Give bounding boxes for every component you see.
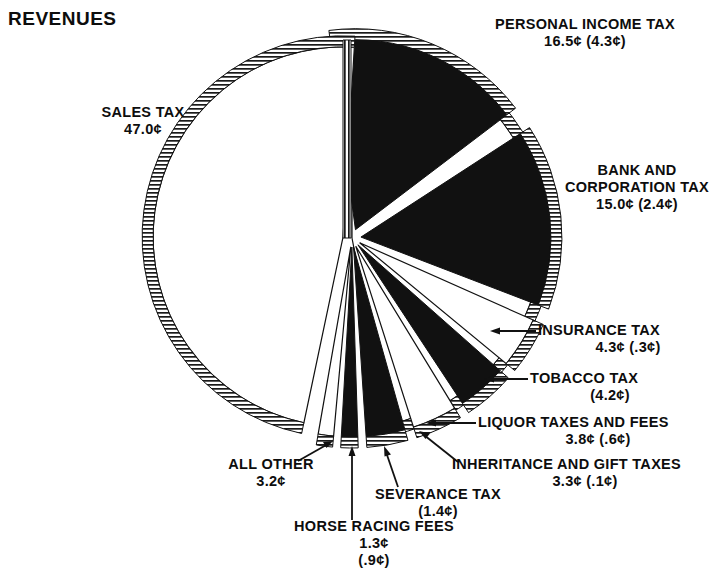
- pie-slices: [142, 29, 562, 448]
- label-liquor-taxes-and-fees: LIQUOR TAXES AND FEES 3.8¢ (.6¢): [478, 414, 718, 448]
- label-bank-corporation-tax-name1: BANK AND: [562, 162, 712, 179]
- label-sales-tax-name: SALES TAX: [78, 104, 208, 121]
- label-tobacco-tax-name: TOBACCO TAX: [530, 370, 690, 387]
- label-liquor-taxes-and-fees-value: 3.8¢ (.6¢): [478, 431, 718, 448]
- label-bank-corporation-tax-value: 15.0¢ (2.4¢): [562, 196, 712, 213]
- label-all-other-name: ALL OTHER: [216, 456, 326, 473]
- label-insurance-tax-name: INSURANCE TAX: [538, 322, 718, 339]
- label-insurance-tax: INSURANCE TAX 4.3¢ (.3¢): [538, 322, 718, 356]
- label-severance-tax-name: SEVERANCE TAX: [368, 486, 508, 503]
- slice-divider-spine: [343, 40, 351, 238]
- pie-chart-svg: [0, 0, 720, 580]
- pie-slice: [142, 36, 355, 434]
- label-liquor-taxes-and-fees-name: LIQUOR TAXES AND FEES: [478, 414, 718, 431]
- label-tobacco-tax-value: (4.2¢): [530, 387, 690, 404]
- label-inheritance-and-gift-taxes-name: INHERITANCE AND GIFT TAXES: [452, 456, 718, 473]
- label-horse-racing-fees: HORSE RACING FEES 1.3¢ (.9¢): [274, 518, 474, 569]
- label-insurance-tax-value: 4.3¢ (.3¢): [538, 339, 718, 356]
- label-bank-corporation-tax-name2: CORPORATION TAX: [562, 179, 712, 196]
- label-horse-racing-fees-value2: (.9¢): [274, 552, 474, 569]
- label-horse-racing-fees-name: HORSE RACING FEES: [274, 518, 474, 535]
- label-severance-tax: SEVERANCE TAX (1.4¢): [368, 486, 508, 520]
- label-personal-income-tax: PERSONAL INCOME TAX 16.5¢ (4.3¢): [470, 16, 700, 50]
- revenues-pie-chart: REVENUES: [0, 0, 720, 580]
- label-all-other: ALL OTHER 3.2¢: [216, 456, 326, 490]
- label-personal-income-tax-value: 16.5¢ (4.3¢): [470, 33, 700, 50]
- label-bank-corporation-tax: BANK AND CORPORATION TAX 15.0¢ (2.4¢): [562, 162, 712, 213]
- label-personal-income-tax-name: PERSONAL INCOME TAX: [470, 16, 700, 33]
- label-tobacco-tax: TOBACCO TAX (4.2¢): [530, 370, 690, 404]
- label-horse-racing-fees-value: 1.3¢: [274, 535, 474, 552]
- label-sales-tax-value: 47.0¢: [78, 121, 208, 138]
- label-all-other-value: 3.2¢: [216, 473, 326, 490]
- label-sales-tax: SALES TAX 47.0¢: [78, 104, 208, 138]
